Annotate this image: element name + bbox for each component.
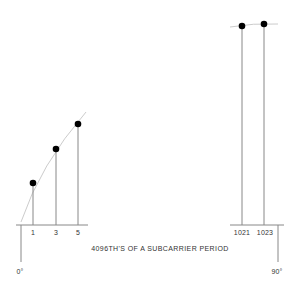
sample-dot-1021 — [239, 23, 246, 30]
tick-label-1023: 1023 — [257, 229, 273, 236]
end-angle-label: 90° — [271, 268, 282, 275]
tick-label-5: 5 — [76, 229, 80, 236]
tick-label-3: 3 — [54, 229, 58, 236]
axis-title: 4096TH'S OF A SUBCARRIER PERIOD — [91, 245, 228, 252]
sample-dot-1023 — [261, 21, 268, 28]
tick-label-1: 1 — [31, 229, 35, 236]
sample-dot-3 — [53, 146, 60, 153]
sine-curve-end — [230, 24, 278, 27]
tick-label-1021: 1021 — [234, 229, 250, 236]
sample-dot-5 — [75, 121, 82, 128]
start-angle-label: 0° — [16, 268, 23, 275]
sine-curve-start — [21, 112, 86, 222]
sample-dot-1 — [30, 180, 37, 187]
